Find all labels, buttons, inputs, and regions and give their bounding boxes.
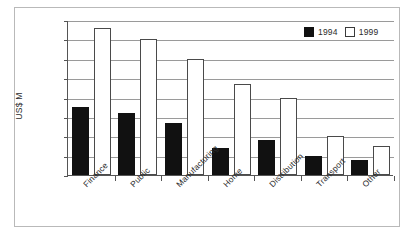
legend-swatch-1999 [345,27,355,37]
x-tick-mark [254,176,255,181]
bar-chart-figure: US$ M 010002000300040005000600070008000 … [0,0,414,240]
gridline [68,137,394,138]
y-tick-mark [64,137,68,138]
y-tick-mark [64,40,68,41]
y-tick-mark [64,60,68,61]
bar-manufacturing-1994 [165,123,182,175]
y-tick-mark [64,157,68,158]
legend-swatch-1994 [304,27,314,37]
legend-entry-1994: 1994 [304,27,338,37]
x-tick-mark [301,176,302,181]
bar-distribution-1994 [258,140,275,175]
bar-transport-1994 [305,156,322,175]
gridline [68,79,394,80]
x-tick-mark [347,176,348,181]
y-tick-mark [64,21,68,22]
chart-legend: 1994 1999 [301,23,381,40]
x-tick-mark [161,176,162,181]
legend-entry-1999: 1999 [345,27,379,37]
gridline [68,40,394,41]
legend-label-1994: 1994 [318,27,338,37]
bar-public-1994 [118,113,135,175]
y-tick-mark [64,176,68,177]
gridline [68,21,394,22]
bar-other-1994 [351,160,368,176]
y-tick-mark [64,118,68,119]
y-axis-title: US$ M [14,76,24,136]
plot-area: 1994 1999 [67,21,393,176]
x-tick-mark [394,176,395,181]
gridline [68,60,394,61]
bar-home-1999 [234,84,251,175]
bar-finance-1999 [94,28,111,175]
gridline [68,157,394,158]
legend-label-1999: 1999 [359,27,379,37]
y-tick-mark [64,79,68,80]
x-tick-mark [115,176,116,181]
bar-public-1999 [140,39,157,175]
x-tick-mark [208,176,209,181]
gridline [68,118,394,119]
bar-finance-1994 [72,107,89,175]
y-tick-mark [64,99,68,100]
gridline [68,99,394,100]
